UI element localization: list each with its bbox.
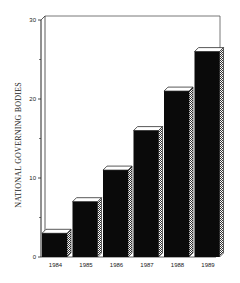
x-tick-label: 1984 xyxy=(49,262,63,268)
y-axis-label: NATIONAL GOVERNING BODIES xyxy=(14,82,23,208)
bars xyxy=(42,48,224,257)
bar-1989 xyxy=(195,48,224,257)
bar-1984 xyxy=(42,229,71,257)
x-tick-label: 1989 xyxy=(201,262,215,268)
bar-1986 xyxy=(103,166,132,257)
x-tick-label: 1988 xyxy=(171,262,185,268)
x-tick-label: 1985 xyxy=(79,262,93,268)
y-tick-label: 10 xyxy=(29,175,36,181)
bar-1985 xyxy=(73,198,102,257)
x-axis-labels: 198419851986198719881989 xyxy=(49,262,216,268)
y-tick-label: 0 xyxy=(33,254,37,260)
y-tick-label: 30 xyxy=(29,17,36,23)
bar-1988 xyxy=(164,87,193,257)
y-axis: 0102030 xyxy=(29,17,41,260)
x-tick-label: 1987 xyxy=(140,262,154,268)
bar-1987 xyxy=(134,127,163,257)
bar-chart: 0102030 198419851986198719881989 NATIONA… xyxy=(0,0,240,283)
y-tick-label: 20 xyxy=(29,96,36,102)
x-tick-label: 1986 xyxy=(110,262,124,268)
